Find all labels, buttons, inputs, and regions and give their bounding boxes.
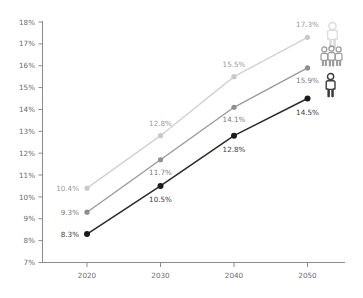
data-point (231, 74, 236, 79)
y-tick-label: 16% (19, 61, 35, 70)
y-tick-label: 7% (24, 258, 36, 267)
data-point (158, 133, 163, 138)
data-point (305, 96, 311, 102)
y-tick-label: 18% (19, 18, 35, 27)
y-tick-label: 11% (19, 171, 35, 180)
x-tick-label: 2040 (225, 271, 244, 280)
series-line-series-light (87, 37, 308, 188)
data-point (84, 186, 89, 191)
series-lines (87, 37, 308, 234)
data-label: 14.1% (223, 115, 246, 124)
data-label: 10.4% (56, 184, 79, 193)
data-point (158, 157, 163, 162)
person-single-dark-icon (326, 74, 335, 97)
y-tick-label: 15% (19, 83, 35, 92)
series-line-series-medium (87, 68, 308, 212)
data-label: 8.3% (61, 230, 79, 239)
data-label: 17.3% (296, 20, 319, 29)
y-tick-label: 14% (19, 105, 35, 114)
data-label: 12.8% (223, 145, 246, 154)
y-tick-label: 10% (19, 193, 35, 202)
data-label: 10.5% (149, 195, 172, 204)
axes (43, 21, 346, 263)
chart-svg: 18%17%16%15%14%13%12%11%10%9%8%7% 202020… (0, 0, 363, 298)
y-tick-label: 13% (19, 127, 35, 136)
data-point (84, 231, 90, 237)
data-label: 14.5% (296, 108, 319, 117)
series-points (84, 35, 311, 237)
series-line-series-dark (87, 99, 308, 235)
data-point (158, 183, 164, 189)
x-tick-label: 2050 (298, 271, 317, 280)
data-label: 15.9% (296, 76, 319, 85)
y-tick-label: 9% (24, 214, 36, 223)
line-chart: 18%17%16%15%14%13%12%11%10%9%8%7% 202020… (0, 0, 363, 298)
x-tick-label: 2020 (78, 271, 97, 280)
legend (321, 22, 342, 96)
y-tick-label: 17% (19, 39, 35, 48)
data-label: 11.7% (149, 168, 172, 177)
data-point (84, 210, 89, 215)
person-single-light-icon (328, 22, 338, 47)
data-point (305, 35, 310, 40)
data-label: 9.3% (61, 208, 79, 217)
y-tick-label: 12% (19, 149, 35, 158)
data-point (231, 105, 236, 110)
y-tick-label: 8% (24, 236, 36, 245)
data-point (305, 65, 310, 70)
person-group-medium-icon (321, 46, 342, 66)
x-axis-ticks: 2020203020402050 (78, 263, 317, 281)
data-label: 12.8% (149, 119, 172, 128)
y-axis-ticks: 18%17%16%15%14%13%12%11%10%9%8%7% (19, 18, 42, 268)
x-tick-label: 2030 (151, 271, 170, 280)
data-label: 15.5% (223, 60, 246, 69)
data-point (231, 133, 237, 139)
